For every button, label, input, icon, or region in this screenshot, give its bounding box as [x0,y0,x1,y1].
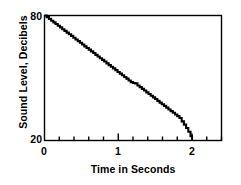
x-axis-ticks [59,134,221,141]
chart-figure: Sound Level, Decibels 80 20 0 1 2 Time i… [0,0,241,185]
plot-area [0,0,241,185]
data-series-line [45,16,193,141]
